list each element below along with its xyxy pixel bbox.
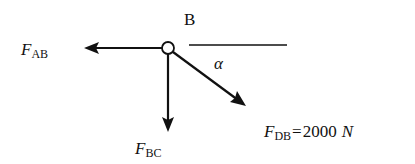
angle-alpha-label: α (214, 54, 224, 73)
force-arrow-ab (84, 42, 162, 54)
arrowhead-icon (230, 91, 246, 106)
force-label-ab: FAB (20, 40, 48, 61)
node-b-label: B (184, 10, 195, 29)
force-arrow-db (173, 52, 246, 106)
node-b-circle (162, 42, 174, 54)
force-label-bc: FBC (134, 139, 161, 160)
force-label-db: FDB=2000N (263, 122, 355, 143)
free-body-diagram: B α FAB FBC FDB=2000N (0, 0, 415, 164)
force-arrow-bc (162, 54, 174, 132)
